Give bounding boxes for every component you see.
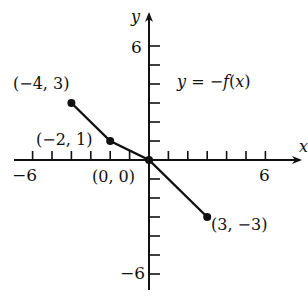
point-label-neg2-1: (−2, 1) (36, 130, 92, 149)
point-label-3-neg3: (3, −3) (211, 215, 267, 234)
data-point (67, 99, 75, 107)
x-tick-label-pos6: 6 (259, 165, 270, 185)
point-label-0-0: (0, 0) (92, 167, 135, 186)
data-point (203, 213, 211, 221)
equation-label: y = −f(x) (176, 72, 250, 91)
equation-close: ) (244, 72, 250, 91)
equation-x: x (235, 72, 244, 91)
graph-plot: y x −6 6 6 −6 y = −f(x) (−4, 3) (−2, 1) … (0, 0, 308, 303)
y-axis-label: y (130, 7, 141, 26)
y-tick-label-pos6: 6 (131, 37, 142, 57)
point-label-neg4-3: (−4, 3) (13, 74, 69, 93)
x-tick-label-neg6: −6 (12, 165, 37, 185)
data-point (106, 137, 114, 145)
equation-eq: = − (186, 72, 223, 91)
x-axis-label: x (299, 137, 308, 156)
y-tick-label-neg6: −6 (120, 263, 145, 283)
data-point (145, 156, 153, 164)
